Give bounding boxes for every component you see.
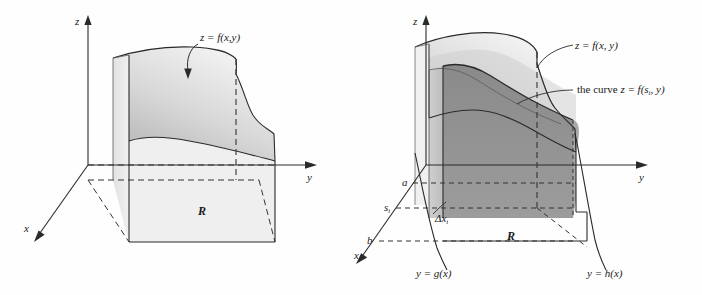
right-curve-label: the curve z = f(si, y) xyxy=(577,84,665,97)
z-axis-arrow xyxy=(84,15,91,25)
right-figure: z y x z = f(x, y) the curve z = f(si, y)… xyxy=(351,0,702,295)
curve-label-eq: z = f(s xyxy=(620,83,648,95)
right-z-axis-label: z xyxy=(413,16,417,27)
figure-canvas: z y x z = f(x,y) R xyxy=(0,0,702,295)
delta-x-sub: i xyxy=(446,218,448,225)
curve-label-prefix: the curve xyxy=(577,83,620,95)
right-figure-svg xyxy=(351,0,702,295)
dashed-base-left-edge xyxy=(0,0,88,180)
boundary-h-label: y = h(x) xyxy=(587,268,623,279)
back-wall-fill xyxy=(415,44,429,205)
left-y-axis-label: y xyxy=(307,172,312,183)
right-region-label: R xyxy=(507,230,515,242)
right-surface-label: z = f(x, y) xyxy=(575,40,618,51)
boundary-curve-h xyxy=(575,133,606,270)
y-axis-arrow xyxy=(636,161,648,169)
right-y-axis-label: y xyxy=(639,172,644,183)
left-region-label: R xyxy=(198,205,206,217)
right-x-axis-label: x xyxy=(354,250,359,261)
left-x-axis-label: x xyxy=(24,223,29,234)
mark-a-label: a xyxy=(402,177,408,188)
x-axis xyxy=(40,165,88,233)
left-figure: z y x z = f(x,y) R xyxy=(0,0,351,295)
mark-si-sub: i xyxy=(388,207,390,214)
left-surface-label: z = f(x,y) xyxy=(200,32,240,43)
slab-left-face-fill xyxy=(429,66,443,218)
mark-b-label: b xyxy=(367,235,373,246)
left-figure-svg xyxy=(0,0,351,295)
curve-label-tail: , y) xyxy=(651,83,665,95)
boundary-g-label: y = g(x) xyxy=(416,268,452,279)
left-wall-fill xyxy=(113,55,129,242)
delta-x-label: Δxi xyxy=(435,213,448,226)
x-axis-arrow xyxy=(34,231,45,242)
y-axis-arrow xyxy=(305,161,317,169)
delta-x-main: Δx xyxy=(435,212,446,224)
z-axis-arrow xyxy=(422,15,429,25)
surface-label-leader xyxy=(537,45,573,68)
mark-si-label: si xyxy=(384,202,390,215)
left-z-axis-label: z xyxy=(75,16,79,27)
